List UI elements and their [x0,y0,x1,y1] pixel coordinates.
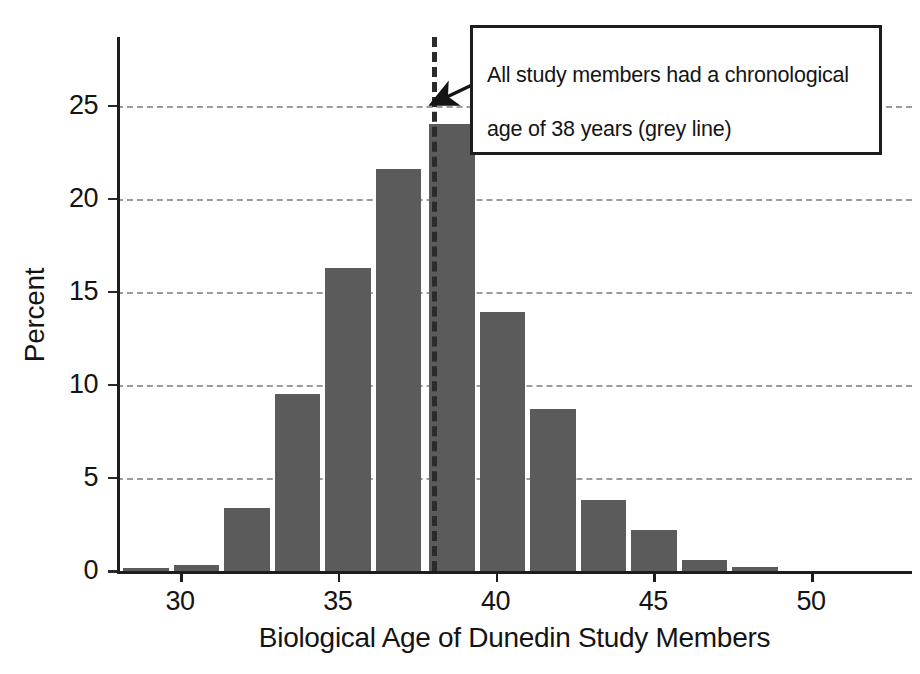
y-tick-20 [108,198,117,201]
histogram-bar [325,268,370,571]
histogram-bar [530,409,575,571]
x-tick-label-30: 30 [145,586,215,616]
y-tick-0 [108,570,117,573]
x-tick-40 [496,571,499,582]
reference-line-age-38 [432,37,437,571]
x-tick-45 [653,571,656,582]
y-tick-label-25: 25 [32,92,98,119]
x-tick-35 [338,571,341,582]
histogram-figure: 25201510503035404550 Percent Biological … [0,0,920,674]
histogram-bar [376,169,421,571]
x-tick-label-35: 35 [303,586,373,616]
annotation-line-2: age of 38 years (grey line) [487,117,731,141]
histogram-bar [581,500,626,571]
x-tick-label-50: 50 [776,586,846,616]
x-tick-30 [180,571,183,582]
y-tick-label-0: 0 [32,557,98,584]
y-axis-title: Percent [20,185,50,445]
x-axis-title: Biological Age of Dunedin Study Members [117,622,912,654]
y-tick-25 [108,105,117,108]
y-tick-label-5: 5 [32,464,98,491]
y-tick-15 [108,291,117,294]
x-tick-label-45: 45 [618,586,688,616]
histogram-bar [631,530,676,571]
x-tick-label-40: 40 [461,586,531,616]
annotation-textbox: All study members had a chronological ag… [470,25,882,155]
y-tick-10 [108,384,117,387]
y-tick-5 [108,477,117,480]
annotation-line-1: All study members had a chronological [487,63,849,87]
x-axis-line [117,571,912,574]
histogram-bar [480,312,525,571]
y-axis-line [117,37,120,574]
histogram-bar [682,560,727,571]
x-tick-50 [811,571,814,582]
histogram-bar [275,394,320,571]
histogram-bar [224,508,269,571]
